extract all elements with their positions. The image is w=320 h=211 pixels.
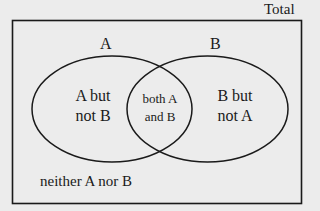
region-b-only-line2: not A bbox=[200, 106, 270, 126]
region-both-line2: and B bbox=[130, 108, 190, 126]
region-b-only: B but not A bbox=[200, 86, 270, 126]
region-both-line1: both A bbox=[130, 90, 190, 108]
region-neither: neither A nor B bbox=[40, 174, 132, 189]
set-b-label: B bbox=[210, 36, 221, 52]
universe-label: Total bbox=[264, 2, 295, 17]
region-b-only-line1: B but bbox=[200, 86, 270, 106]
set-a-label: A bbox=[100, 36, 112, 52]
region-a-only-line1: A but bbox=[58, 86, 128, 106]
region-a-only: A but not B bbox=[58, 86, 128, 126]
region-both: both A and B bbox=[130, 90, 190, 126]
region-a-only-line2: not B bbox=[58, 106, 128, 126]
